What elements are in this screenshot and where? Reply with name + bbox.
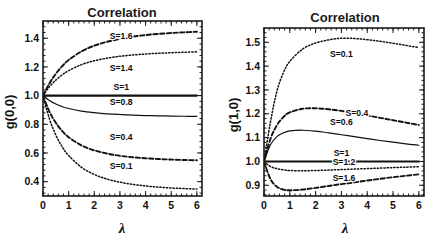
x-tick-label: 0 xyxy=(261,199,267,211)
y-tick-label: 1.3 xyxy=(245,84,260,96)
series-label: S=1.4 xyxy=(110,63,133,73)
x-tick-label: 1 xyxy=(66,199,72,211)
series-label: S=0.4 xyxy=(110,132,133,142)
series-line xyxy=(43,96,197,190)
x-tick-label: 6 xyxy=(416,199,422,211)
y-tick-label: 0.4 xyxy=(24,175,39,187)
y-tick-label: 0.9 xyxy=(245,179,260,191)
x-tick-label: 5 xyxy=(390,199,396,211)
left-chart-panel: Correlation g(0,0) λ 01234560.40.60.81.0… xyxy=(0,0,223,245)
y-tick-label: 1.4 xyxy=(245,60,260,72)
series-label: S=1.2 xyxy=(333,157,356,167)
right-chart-panel: Correlation g(1,0) λ 01234560.91.01.11.2… xyxy=(223,0,446,245)
chart-title: Correlation xyxy=(310,10,379,25)
x-tick-label: 2 xyxy=(91,199,97,211)
x-tick-label: 6 xyxy=(194,199,200,211)
series-label: S=0.8 xyxy=(110,97,133,107)
y-tick-label: 1.0 xyxy=(24,89,39,101)
correlation-figure: Correlation g(0,0) λ 01234560.40.60.81.0… xyxy=(0,0,446,245)
right-plot-area: 01234560.91.01.11.21.31.41.5S=0.1S=0.1S=… xyxy=(245,28,424,211)
y-tick-label: 1.2 xyxy=(24,61,39,73)
series-label: S=0.1 xyxy=(330,49,353,59)
x-tick-label: 4 xyxy=(143,199,149,211)
x-tick-label: 5 xyxy=(168,199,174,211)
left-plot-area: 01234560.40.60.81.01.21.4S=1.6S=1.6S=1.4… xyxy=(24,21,202,211)
chart-title: Correlation xyxy=(87,5,156,20)
y-tick-label: 1.2 xyxy=(245,107,260,119)
x-tick-label: 4 xyxy=(364,199,370,211)
y-tick-label: 1.4 xyxy=(24,32,39,44)
y-tick-label: 0.8 xyxy=(24,118,39,130)
x-axis-label: λ xyxy=(118,220,126,236)
y-tick-label: 0.6 xyxy=(24,147,39,159)
y-axis-label: g(1,0) xyxy=(226,98,241,133)
series-label: S=1 xyxy=(113,82,129,92)
right-chart-svg: Correlation g(1,0) λ 01234560.91.01.11.2… xyxy=(223,0,446,245)
series-label: S=0.1 xyxy=(110,161,133,171)
series-label: S=1.6 xyxy=(333,173,356,183)
x-tick-label: 3 xyxy=(338,199,344,211)
series-label: S=1.6 xyxy=(110,31,133,41)
y-tick-label: 1.1 xyxy=(245,131,260,143)
y-axis-label: g(0,0) xyxy=(2,95,17,130)
series-label: S=0.4 xyxy=(346,108,369,118)
y-tick-label: 1.0 xyxy=(245,155,260,167)
x-tick-label: 3 xyxy=(117,199,123,211)
series-label: S=0.6 xyxy=(330,117,353,127)
x-tick-label: 2 xyxy=(313,199,319,211)
x-axis-label: λ xyxy=(341,220,349,236)
x-tick-label: 0 xyxy=(40,199,46,211)
y-tick-label: 1.5 xyxy=(245,36,260,48)
x-tick-label: 1 xyxy=(287,199,293,211)
left-chart-svg: Correlation g(0,0) λ 01234560.40.60.81.0… xyxy=(0,0,223,245)
